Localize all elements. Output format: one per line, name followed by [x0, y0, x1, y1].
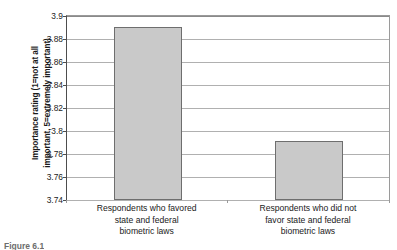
y-axis-tick-mark: [63, 16, 67, 17]
y-axis-tick-mark: [63, 62, 67, 63]
y-axis-tick-label: 3.86: [1, 58, 63, 66]
x-axis-labels: Respondents who favoredstate and federal…: [66, 203, 390, 248]
x-axis-tick-mark: [66, 200, 67, 203]
y-axis-tick-label: 3.78: [1, 149, 63, 157]
x-axis-label-line: favor state and federal: [227, 215, 388, 227]
x-axis-label-line: Respondents who favored: [66, 203, 227, 215]
y-axis-tick-label: 3.76: [1, 172, 63, 180]
x-axis-label-line: biometric laws: [227, 226, 388, 238]
bar: [275, 141, 343, 200]
plot-area: 3.743.763.783.83.823.843.863.883.9: [66, 15, 390, 201]
x-axis-label-line: biometric laws: [66, 226, 227, 238]
y-axis-tick-label: 3.9: [1, 12, 63, 20]
figure-caption: Figure 6.1: [4, 241, 44, 250]
y-axis-tick-mark: [63, 39, 67, 40]
y-axis-tick-label: 3.8: [1, 127, 63, 135]
x-axis-category-label: Respondents who favoredstate and federal…: [66, 203, 227, 238]
x-axis-label-line: state and federal: [66, 215, 227, 227]
bar-chart-figure: Importance rating (1=not at all importan…: [0, 0, 397, 250]
x-axis-tick-mark: [389, 200, 390, 203]
gridline: [67, 16, 389, 17]
y-axis-tick-mark: [63, 154, 67, 155]
plot-inner: 3.743.763.783.83.823.843.863.883.9: [67, 16, 389, 200]
y-axis-tick-label: 3.88: [1, 35, 63, 43]
y-axis-tick-label: 3.74: [1, 195, 63, 203]
y-axis-tick-mark: [63, 85, 67, 86]
y-axis-tick-mark: [63, 131, 67, 132]
y-axis-tick-mark: [63, 108, 67, 109]
x-axis-label-line: Respondents who did not: [227, 203, 388, 215]
y-axis-tick-label: 3.84: [1, 81, 63, 89]
y-axis-tick-label: 3.82: [1, 104, 63, 112]
x-axis-category-label: Respondents who did notfavor state and f…: [227, 203, 388, 238]
y-axis-tick-mark: [63, 177, 67, 178]
bar: [114, 27, 182, 200]
